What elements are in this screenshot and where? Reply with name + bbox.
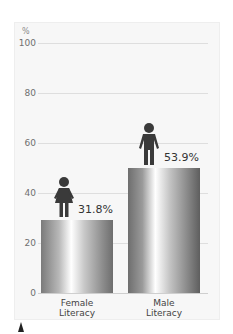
x-label-female-line2: Literacy bbox=[42, 308, 112, 318]
x-axis-baseline bbox=[38, 293, 208, 294]
y-tick-80: 80 bbox=[14, 88, 36, 98]
x-label-male: Male Literacy bbox=[129, 298, 199, 318]
x-label-female: Female Literacy bbox=[42, 298, 112, 318]
gridline-80 bbox=[38, 93, 208, 94]
female-figure-icon bbox=[53, 176, 75, 218]
y-tick-100: 100 bbox=[14, 38, 36, 48]
x-label-female-line1: Female bbox=[42, 298, 112, 308]
bar-male-literacy bbox=[128, 168, 200, 293]
x-label-male-line1: Male bbox=[129, 298, 199, 308]
x-label-male-line2: Literacy bbox=[129, 308, 199, 318]
y-tick-60: 60 bbox=[14, 138, 36, 148]
y-axis-unit: % bbox=[22, 27, 30, 36]
male-value-label: 53.9% bbox=[164, 152, 199, 164]
up-arrow-icon bbox=[18, 322, 24, 332]
y-tick-20: 20 bbox=[14, 238, 36, 248]
gridline-100 bbox=[38, 43, 208, 44]
female-value-label: 31.8% bbox=[78, 204, 113, 216]
bar-female-literacy bbox=[41, 220, 113, 293]
y-tick-0: 0 bbox=[14, 288, 36, 298]
male-figure-icon bbox=[138, 122, 160, 166]
gridline-60 bbox=[38, 143, 208, 144]
y-tick-40: 40 bbox=[14, 188, 36, 198]
